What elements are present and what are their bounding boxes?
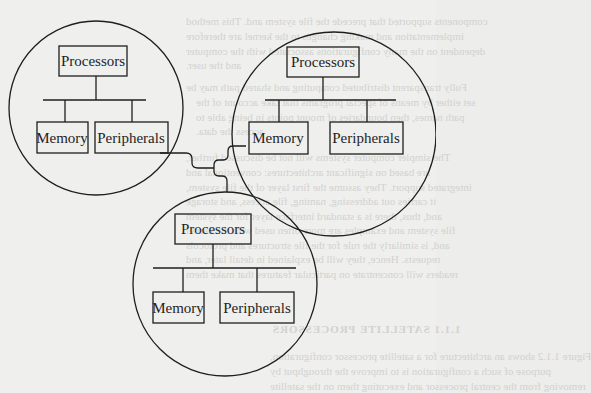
cluster-bottom-boundary <box>133 192 317 376</box>
processors-label: Processors <box>61 53 125 69</box>
interconnect-left-link <box>160 153 214 168</box>
processors-label: Processors <box>181 221 245 237</box>
interconnect-right-link <box>214 146 246 192</box>
memory-label: Memory <box>36 130 88 146</box>
peripherals-label: Peripherals <box>332 130 400 146</box>
processors-label: Processors <box>291 54 355 70</box>
memory-label: Memory <box>252 130 304 146</box>
peripherals-label: Peripherals <box>223 300 291 316</box>
memory-label: Memory <box>152 300 204 316</box>
cluster-top-left-boundary <box>9 21 183 195</box>
peripherals-label: Peripherals <box>97 130 165 146</box>
